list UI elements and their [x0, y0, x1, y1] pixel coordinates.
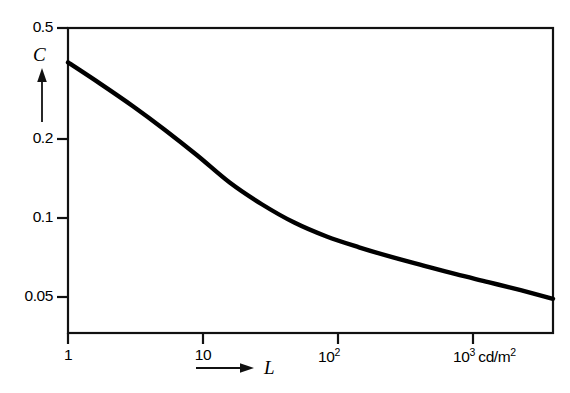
chart-plot-area	[0, 0, 570, 393]
x-axis-arrow-icon	[196, 363, 254, 373]
x-tick-label-0: 1	[48, 346, 88, 364]
x-tick-label-2-exponent: 2	[334, 346, 340, 358]
y-tick-label-0: 0.5	[0, 18, 53, 36]
y-tick-label-2: 0.1	[0, 208, 53, 226]
x-tick-label-2-mantissa: 10	[318, 348, 334, 365]
x-tick-label-2: 102	[318, 346, 340, 366]
y-axis-ticks	[57, 28, 68, 297]
plot-frame	[68, 28, 553, 333]
y-tick-label-3: 0.05	[0, 287, 53, 305]
y-tick-label-1: 0.2	[0, 129, 53, 147]
x-tick-label-3: 103cd/m2	[453, 346, 516, 366]
chart-figure: 0.5 0.2 0.1 0.05 1 10 102 103cd/m2 C L	[0, 0, 570, 393]
x-axis-ticks	[68, 333, 473, 344]
data-series-line	[68, 62, 553, 298]
x-tick-label-3-mantissa: 10	[453, 348, 469, 365]
y-axis-label: C	[33, 44, 46, 66]
x-axis-label: L	[264, 357, 275, 379]
x-tick-label-1: 10	[183, 346, 223, 364]
y-axis-arrow-icon	[37, 68, 47, 122]
x-axis-unit-exponent: 2	[510, 346, 516, 358]
x-axis-unit: cd/m	[475, 348, 510, 365]
